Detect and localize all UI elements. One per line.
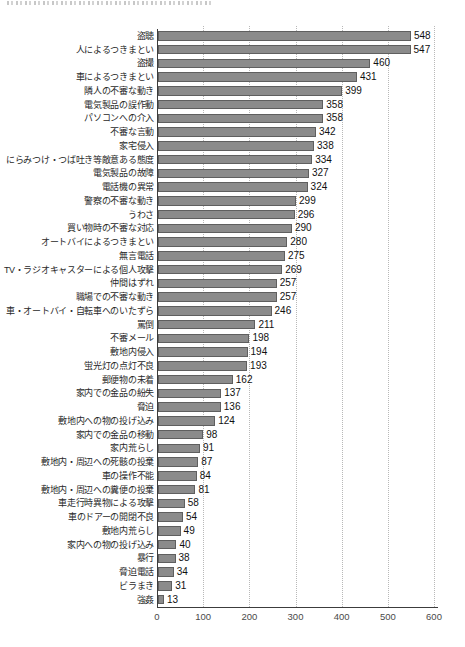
bar: [158, 347, 248, 357]
bar: [158, 169, 309, 179]
bar-row: 車走行時異物による攻撃58: [0, 497, 465, 511]
bar-row: 電気製品の誤作動358: [0, 98, 465, 112]
category-label: 敷地内・周辺への糞便の投棄: [0, 485, 158, 495]
value-label: 399: [345, 86, 362, 96]
value-label: 40: [179, 540, 190, 550]
bar-row: 盗聴548: [0, 29, 465, 43]
value-label: 324: [311, 182, 328, 192]
bar-row: 盗撮460: [0, 57, 465, 71]
bar-row: 家内での金品の紛失137: [0, 387, 465, 401]
bar-chart: 盗聴548人によるつきまとい547盗撮460車によるつきまとい431隣人の不審な…: [0, 0, 465, 647]
x-axis-line: [157, 607, 438, 608]
bar: [158, 141, 314, 151]
bar: [158, 540, 176, 550]
category-label: 家宅侵入: [0, 141, 158, 151]
bar-row: 罵倒211: [0, 318, 465, 332]
bar-row: 家宅侵入338: [0, 139, 465, 153]
category-label: 家内への物の投げ込み: [0, 540, 158, 550]
category-label: 不審メール: [0, 333, 158, 343]
value-label: 193: [250, 361, 267, 371]
value-label: 431: [360, 72, 377, 82]
bar: [158, 499, 185, 509]
bar-row: 家内への物の投げ込み40: [0, 538, 465, 552]
value-label: 327: [312, 168, 329, 178]
bar-row: 職場での不審な動き257: [0, 290, 465, 304]
bar: [158, 375, 233, 385]
category-label: 電話機の異常: [0, 182, 158, 192]
bar-row: TV・ラジオキャスターによる個人攻撃269: [0, 263, 465, 277]
bar-row: うわさ296: [0, 208, 465, 222]
bar-row: 車によるつきまとい431: [0, 70, 465, 84]
value-label: 280: [290, 237, 307, 247]
category-label: 盗撮: [0, 58, 158, 68]
bar-row: 不審メール198: [0, 332, 465, 346]
value-label: 290: [295, 223, 312, 233]
bar: [158, 224, 292, 234]
category-label: 敷地内への物の投げ込み: [0, 416, 158, 426]
bar: [158, 279, 277, 289]
category-label: 家内荒らし: [0, 443, 158, 453]
bar-row: 敷地内侵入194: [0, 345, 465, 359]
category-label: 敷地内侵入: [0, 347, 158, 357]
bar: [158, 444, 200, 454]
value-label: 296: [298, 210, 315, 220]
bar: [158, 155, 312, 165]
bar-row: オートバイによるつきまとい280: [0, 235, 465, 249]
bar-row: 暴行38: [0, 552, 465, 566]
category-label: 強姦: [0, 595, 158, 605]
value-label: 87: [201, 457, 212, 467]
category-label: うわさ: [0, 210, 158, 220]
bar: [158, 361, 247, 371]
bar-row: 車のドアーの開閉不良54: [0, 510, 465, 524]
x-tick-label-0: 0: [154, 611, 159, 622]
bar-rows: 盗聴548人によるつきまとい547盗撮460車によるつきまとい431隣人の不審な…: [0, 29, 465, 607]
x-tick-label-300: 300: [288, 611, 304, 622]
category-label: 警察の不審な動き: [0, 196, 158, 206]
x-tick-label-600: 600: [426, 611, 442, 622]
category-label: 敷地内荒らし: [0, 526, 158, 536]
bar: [158, 334, 249, 344]
bar-row: 人によるつきまとい547: [0, 43, 465, 57]
value-label: 275: [288, 251, 305, 261]
value-label: 338: [317, 141, 334, 151]
bar: [158, 389, 221, 399]
value-label: 460: [373, 58, 390, 68]
bar-row: 不審な言動342: [0, 125, 465, 139]
bar: [158, 45, 411, 55]
bar-row: 電気製品の故障327: [0, 167, 465, 181]
bar-row: 家内荒らし91: [0, 442, 465, 456]
value-label: 81: [198, 485, 209, 495]
bar-row: 敷地内荒らし49: [0, 524, 465, 538]
x-axis-tick-labels: 0100200300400500600: [0, 611, 465, 625]
bar-row: ビラまき31: [0, 579, 465, 593]
bar: [158, 292, 277, 302]
value-label: 137: [224, 388, 241, 398]
category-label: 電気製品の誤作動: [0, 100, 158, 110]
value-label: 54: [186, 512, 197, 522]
category-label: オートバイによるつきまとい: [0, 237, 158, 247]
category-label: 家内での金品の紛失: [0, 388, 158, 398]
bar: [158, 182, 308, 192]
bar-row: 郵便物の未着162: [0, 373, 465, 387]
category-label: 郵便物の未着: [0, 375, 158, 385]
value-label: 136: [224, 402, 241, 412]
bar: [158, 306, 272, 316]
x-tick-label-100: 100: [195, 611, 211, 622]
category-label: 敷地内・周辺への死骸の投棄: [0, 457, 158, 467]
category-label: パソコンへの介入: [0, 113, 158, 123]
y-axis-line: [157, 29, 158, 608]
category-label: 車・オートバイ・自転車へのいたずら: [0, 306, 158, 316]
value-label: 246: [275, 306, 292, 316]
category-label: 職場での不審な動き: [0, 292, 158, 302]
bar-row: 家内での金品の移動98: [0, 428, 465, 442]
bar: [158, 196, 296, 206]
bar: [158, 59, 370, 69]
category-label: 蛍光灯の点灯不良: [0, 361, 158, 371]
bar-row: パソコンへの介入358: [0, 112, 465, 126]
bar: [158, 512, 183, 522]
bar: [158, 127, 316, 137]
bar: [158, 100, 323, 110]
bar: [158, 430, 203, 440]
bar: [158, 567, 174, 577]
bar: [158, 595, 164, 605]
